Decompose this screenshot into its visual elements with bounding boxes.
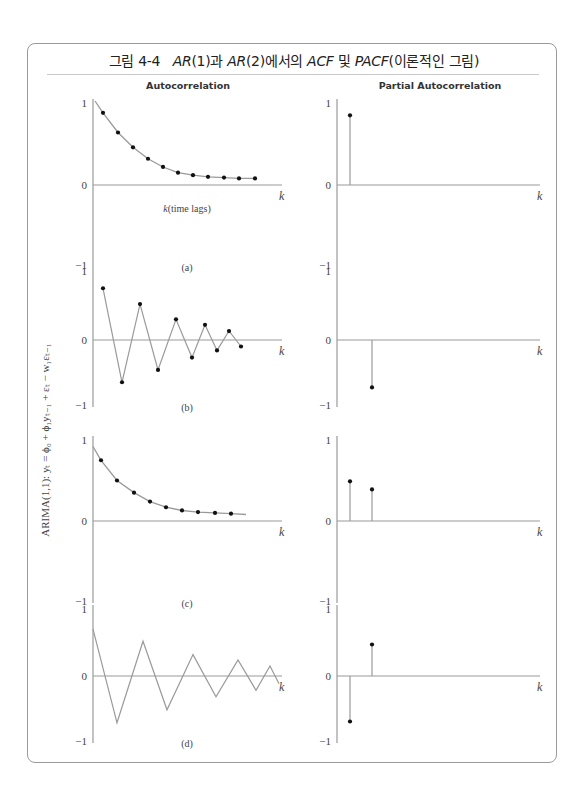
y-tick-label: 0 xyxy=(82,334,88,346)
k-axis-label: k xyxy=(537,680,543,694)
k-axis-label: k xyxy=(537,525,543,539)
data-point xyxy=(176,171,180,175)
data-point xyxy=(174,317,178,321)
data-point xyxy=(132,491,136,495)
acf-panel-a: 10−1kk(time lags)(a) xyxy=(75,97,285,274)
k-axis-label: k xyxy=(279,189,285,203)
panel-caption: (b) xyxy=(181,402,193,414)
k-axis-label: k xyxy=(279,525,285,539)
data-point xyxy=(191,173,195,177)
data-point xyxy=(227,329,231,333)
k-axis-label: k xyxy=(279,344,285,358)
data-point xyxy=(348,113,352,117)
y-tick-label: 1 xyxy=(82,434,88,446)
y-tick-label: 0 xyxy=(82,515,88,527)
chart-grid: 10−1kk(time lags)(a)10−1k10−1k(b)10−1k10… xyxy=(0,0,588,803)
y-tick-label: 1 xyxy=(82,265,88,277)
acf-panel-d: 10−1k(d) xyxy=(75,603,285,750)
data-point xyxy=(348,479,352,483)
acf-curve xyxy=(95,101,255,178)
panel-caption: (c) xyxy=(181,598,192,610)
data-point xyxy=(203,323,207,327)
data-point xyxy=(131,145,135,149)
data-point xyxy=(229,512,233,516)
y-tick-label: 1 xyxy=(82,603,88,615)
data-point xyxy=(190,355,194,359)
y-tick-label: 1 xyxy=(326,97,332,109)
k-axis-label: k xyxy=(537,344,543,358)
panel-caption: (a) xyxy=(181,262,192,274)
y-tick-label: 0 xyxy=(326,179,332,191)
y-tick-label: 0 xyxy=(82,670,88,682)
x-axis-title: k(time lags) xyxy=(163,203,211,215)
data-point xyxy=(215,348,219,352)
pacf-panel-c: 10−1k xyxy=(319,434,543,607)
data-point xyxy=(222,176,226,180)
data-point xyxy=(348,719,352,723)
data-point xyxy=(370,487,374,491)
pacf-panel-a: 10−1k xyxy=(319,97,543,271)
data-point xyxy=(101,111,105,115)
y-tick-label: 1 xyxy=(326,603,332,615)
panel-caption: (d) xyxy=(181,738,193,750)
data-point xyxy=(115,478,119,482)
y-tick-label: 0 xyxy=(82,179,88,191)
k-axis-label: k xyxy=(279,680,285,694)
y-tick-label: −1 xyxy=(75,399,87,411)
data-point xyxy=(370,642,374,646)
y-tick-label: −1 xyxy=(75,735,87,747)
y-tick-label: −1 xyxy=(319,399,331,411)
y-tick-label: 1 xyxy=(82,97,88,109)
data-point xyxy=(146,157,150,161)
y-tick-label: 1 xyxy=(326,265,332,277)
data-point xyxy=(116,130,120,134)
data-point xyxy=(101,286,105,290)
data-point xyxy=(370,385,374,389)
data-point xyxy=(206,175,210,179)
data-point xyxy=(253,176,257,180)
data-point xyxy=(99,458,103,462)
y-tick-label: 0 xyxy=(326,515,332,527)
data-point xyxy=(239,344,243,348)
y-tick-label: −1 xyxy=(319,735,331,747)
data-point xyxy=(148,499,152,503)
pacf-panel-d: 10−1k xyxy=(319,603,543,747)
data-point xyxy=(213,511,217,515)
acf-line xyxy=(103,288,241,382)
data-point xyxy=(156,368,160,372)
data-point xyxy=(164,505,168,509)
acf-panel-b: 10−1k(b) xyxy=(75,265,285,414)
data-point xyxy=(196,510,200,514)
pacf-panel-b: 10−1k xyxy=(319,265,543,411)
data-point xyxy=(138,302,142,306)
data-point xyxy=(237,176,241,180)
y-tick-label: 0 xyxy=(326,334,332,346)
y-tick-label: 1 xyxy=(326,434,332,446)
k-axis-label: k xyxy=(537,189,543,203)
acf-panel-c: 10−1k(c) xyxy=(75,434,285,610)
data-point xyxy=(120,380,124,384)
y-tick-label: 0 xyxy=(326,670,332,682)
data-point xyxy=(180,508,184,512)
data-point xyxy=(161,165,165,169)
